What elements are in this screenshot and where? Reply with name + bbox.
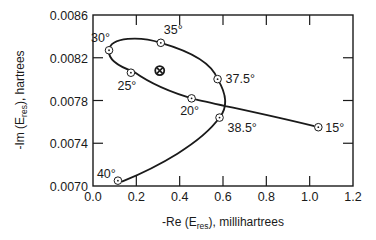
marker-center (317, 126, 319, 128)
data-point-label: 40° (97, 167, 116, 181)
x-tick-label: 1.0 (301, 190, 318, 204)
x-tick-label: 1.2 (344, 190, 361, 204)
data-point: 40° (97, 167, 122, 185)
x-tick-label: 0.8 (258, 190, 275, 204)
marker-center (108, 49, 110, 51)
marker-center (191, 97, 193, 99)
y-tick-label: 0.0070 (50, 180, 88, 194)
data-point-label: 38.5° (228, 121, 257, 135)
x-tick-label: 0.6 (214, 190, 231, 204)
data-point: 25° (117, 69, 136, 93)
special-marker (155, 66, 164, 75)
plot-frame (93, 15, 353, 186)
data-point-label: 20° (180, 104, 199, 118)
y-tick-label: 0.0086 (50, 9, 88, 23)
marker-center (219, 117, 221, 119)
y-axis-title: -Im (Eres), hartrees (13, 50, 29, 149)
chart: 0.00.20.40.60.81.01.20.00700.00740.00780… (0, 0, 376, 240)
data-point: 20° (180, 95, 199, 119)
plot-border (93, 15, 353, 186)
marker-center (117, 180, 119, 182)
data-point: 38.5° (216, 114, 257, 135)
data-point-label: 35° (164, 23, 183, 37)
trajectory-path (109, 39, 314, 182)
data-point-label: 25° (117, 79, 136, 93)
data-point: 35° (157, 23, 183, 47)
marker-center (217, 78, 219, 80)
data-point-label: 37.5° (226, 72, 255, 86)
x-tick-label: 0.2 (128, 190, 145, 204)
data-point: 15° (315, 121, 345, 135)
data-point: 30° (91, 31, 113, 54)
x-axis-title: -Re (Eres), millihartrees (162, 215, 284, 231)
data-point-label: 15° (325, 121, 344, 135)
y-tick-label: 0.0082 (50, 52, 88, 66)
trajectory-curve (109, 39, 314, 182)
y-tick-label: 0.0078 (50, 95, 88, 109)
marker-center (160, 42, 162, 44)
x-tick-label: 0.4 (171, 190, 188, 204)
data-point-label: 30° (91, 31, 110, 45)
marker-center (130, 72, 132, 74)
y-tick-label: 0.0074 (50, 137, 88, 151)
